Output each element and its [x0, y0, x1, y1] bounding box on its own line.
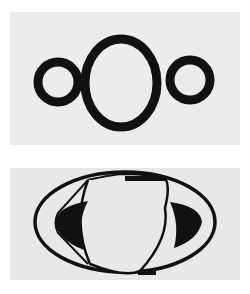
top-drawing-panel	[10, 12, 240, 145]
bottom-drawing-panel	[10, 168, 240, 280]
ringed-saturn-drawing	[10, 168, 240, 280]
three-body-saturn-drawing	[10, 12, 240, 145]
